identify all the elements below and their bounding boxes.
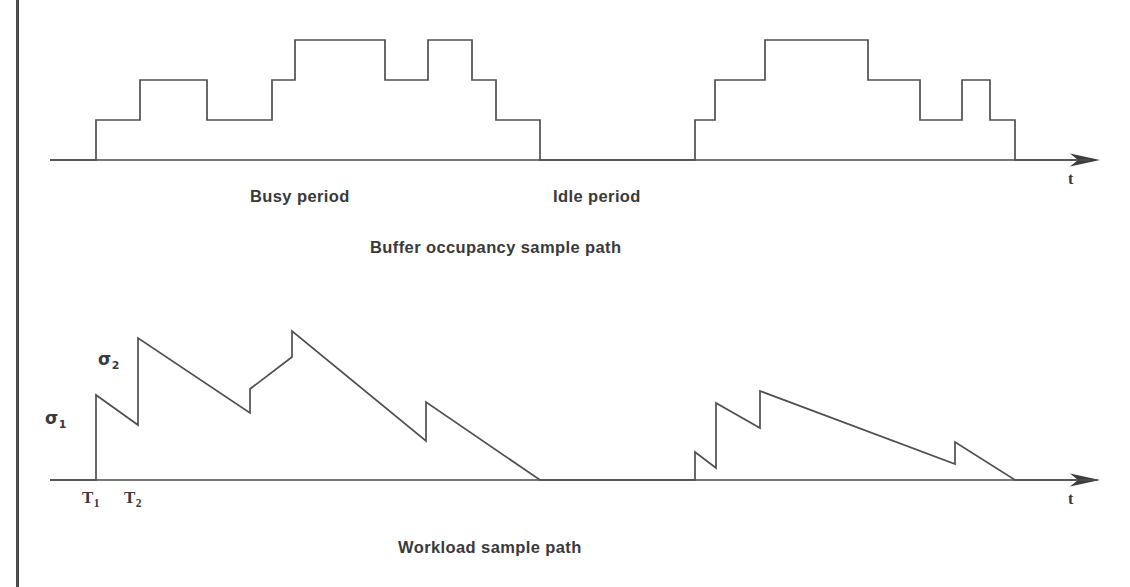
buffer-occupancy-staircase [50, 40, 1090, 160]
sigma-2-subscript: 2 [112, 359, 120, 372]
t1-subscript: 1 [94, 497, 100, 509]
workload-chart-axis-label-t: t [1068, 490, 1074, 508]
buffer-chart-axis-label-t: t [1068, 170, 1074, 188]
busy-period-label: Busy period [250, 187, 350, 206]
sigma-2-symbol: σ [98, 349, 112, 369]
t2-symbol: T [124, 488, 136, 507]
sigma-2-label: σ2 [98, 349, 120, 372]
sigma-1-label: σ1 [45, 408, 67, 431]
t2-tick-label: T2 [124, 488, 142, 509]
t1-tick-label: T1 [82, 488, 100, 509]
idle-period-label: Idle period [553, 187, 641, 206]
t1-symbol: T [82, 488, 94, 507]
figure-canvas: Busy period Idle period t Buffer occupan… [0, 0, 1130, 587]
sigma-1-subscript: 1 [59, 418, 67, 431]
workload-sawtooth-path [50, 331, 1098, 480]
sample-path-drawing [0, 0, 1130, 587]
buffer-chart-caption: Buffer occupancy sample path [370, 238, 621, 257]
t2-subscript: 2 [136, 497, 142, 509]
workload-chart-caption: Workload sample path [398, 538, 582, 557]
sigma-1-symbol: σ [45, 408, 59, 428]
